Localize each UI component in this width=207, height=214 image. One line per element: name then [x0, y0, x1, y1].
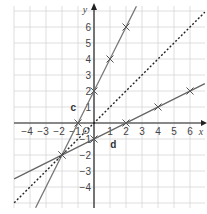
x-axis-label: x: [198, 126, 204, 137]
series-line-yx: [14, 12, 205, 203]
y-tick-label: −3: [80, 166, 92, 177]
axes: [14, 3, 207, 208]
y-tick-label: 6: [85, 22, 91, 33]
x-tick-label: −4: [21, 126, 33, 137]
y-tick-label: 4: [85, 54, 91, 65]
y-tick-label: 2: [85, 86, 91, 97]
y-tick-label: −2: [80, 150, 92, 161]
grid: [14, 6, 205, 208]
x-tick-label: 3: [139, 126, 145, 137]
x-tick-label: 5: [171, 126, 177, 137]
x-tick-label: −2: [53, 126, 65, 137]
y-tick-label: 3: [85, 70, 91, 81]
x-tick-label: 4: [155, 126, 161, 137]
coordinate-graph: −4−3−2−1123456−4−3−2−1123456Oxy cd: [0, 0, 207, 214]
x-tick-label: −3: [37, 126, 49, 137]
y-tick-label: −4: [80, 182, 92, 193]
x-tick-label: 2: [123, 126, 129, 137]
line-label-d: d: [110, 139, 116, 150]
line-label-c: c: [70, 102, 76, 113]
y-axis-arrow-icon: [91, 3, 97, 10]
y-axis-label: y: [82, 4, 88, 15]
y-tick-label: 5: [85, 38, 91, 49]
x-tick-label: 6: [187, 126, 193, 137]
